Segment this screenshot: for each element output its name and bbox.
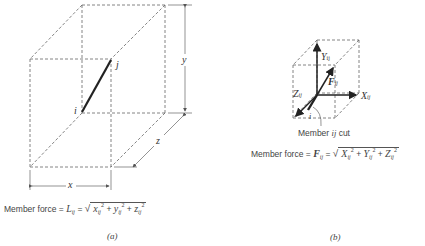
eq-b-lhs: F: [313, 148, 320, 159]
dimension-label-y: y: [182, 55, 186, 65]
cut-caption: Member ij cut: [298, 129, 350, 138]
eq-b-radicand: Xij2 + Yij2 + Zij2: [338, 147, 399, 159]
caption-a: (a): [107, 231, 118, 241]
eq-a-radicand: xij2 + yij2 + zij2: [90, 202, 146, 214]
dimension-y: [168, 5, 192, 113]
eq-a-equals: =: [75, 204, 85, 214]
eq-a-prefix: Member force =: [4, 204, 66, 214]
eq-b-equals: =: [323, 149, 333, 159]
label-i-b: i: [309, 113, 311, 121]
member-ij: [82, 60, 111, 112]
caption-b: (b): [330, 232, 341, 242]
label-Y: Yij: [321, 52, 330, 62]
dimension-label-x: x: [68, 180, 72, 190]
label-F: Fij: [328, 77, 338, 87]
eq-b-prefix: Member force =: [251, 149, 313, 159]
node-label-j: j: [116, 60, 119, 70]
label-X: Xij: [361, 91, 370, 101]
label-Z: Zij: [293, 89, 302, 99]
node-label-i: i: [74, 106, 77, 116]
equation-b: Member force = Fij = √Xij2 + Yij2 + Zij2: [251, 147, 399, 160]
dimension-z: [114, 116, 183, 167]
cut-leader: [313, 107, 321, 126]
equation-a: Member force = Lij = √xij2 + yij2 + zij2: [4, 202, 146, 215]
dimension-label-z: z: [156, 136, 160, 146]
